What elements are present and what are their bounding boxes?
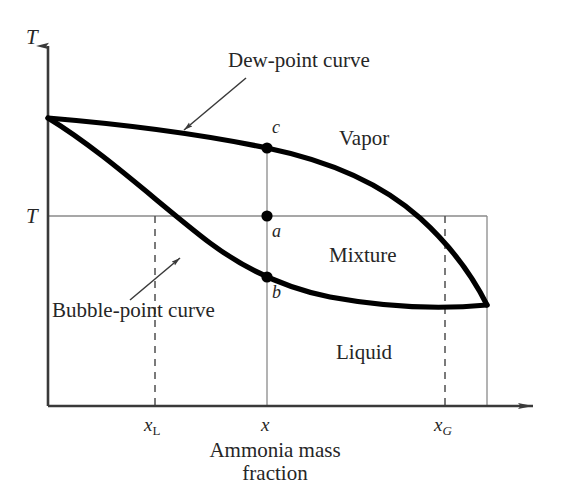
x-tick-sub-xG: G [442,423,451,438]
phase-diagram-figure: T T Dew-point curve Bubble-point curve V… [0,0,567,504]
x-tick-base-x: x [261,414,269,435]
point-b-marker [261,271,272,282]
x-tick-label-xG: xG [434,415,452,434]
x-axis-caption-line1: Ammonia mass [175,440,375,461]
region-label-mixture: Mixture [329,245,397,266]
x-tick-label-xL: xL [144,415,160,434]
region-label-liquid: Liquid [336,342,392,363]
y-axis-label: T [26,27,38,48]
point-label-a: a [272,222,281,240]
x-tick-sub-xL: L [152,423,160,438]
point-label-b: b [272,283,281,301]
leader-line-bubble-point [130,258,180,300]
phase-diagram-canvas [0,0,567,504]
point-label-c: c [272,118,280,136]
leader-line-dew-point [184,78,246,130]
region-label-vapor: Vapor [339,128,389,149]
x-tick-label-x: x [261,415,269,434]
y-axis-tick-label-T: T [26,206,38,227]
annotation-dew-point-curve: Dew-point curve [228,50,370,71]
x-axis-caption-line2: fraction [175,463,375,484]
annotation-bubble-point-curve: Bubble-point curve [52,300,215,321]
point-a-marker [261,210,272,221]
point-c-marker [261,142,272,153]
